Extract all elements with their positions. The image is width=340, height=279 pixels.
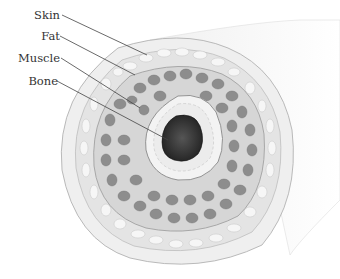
leader-line-skin (62, 15, 147, 55)
label-bone: Bone (0, 75, 58, 87)
label-fat: Fat (0, 30, 60, 42)
label-muscle: Muscle (0, 52, 60, 64)
label-skin: Skin (0, 9, 60, 21)
